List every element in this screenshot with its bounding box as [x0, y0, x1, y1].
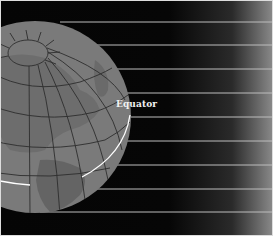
- diagram-frame: Equator: [0, 0, 273, 236]
- globe: [0, 21, 131, 215]
- diagram-graphic: [0, 0, 273, 236]
- equator-label: Equator: [116, 99, 157, 109]
